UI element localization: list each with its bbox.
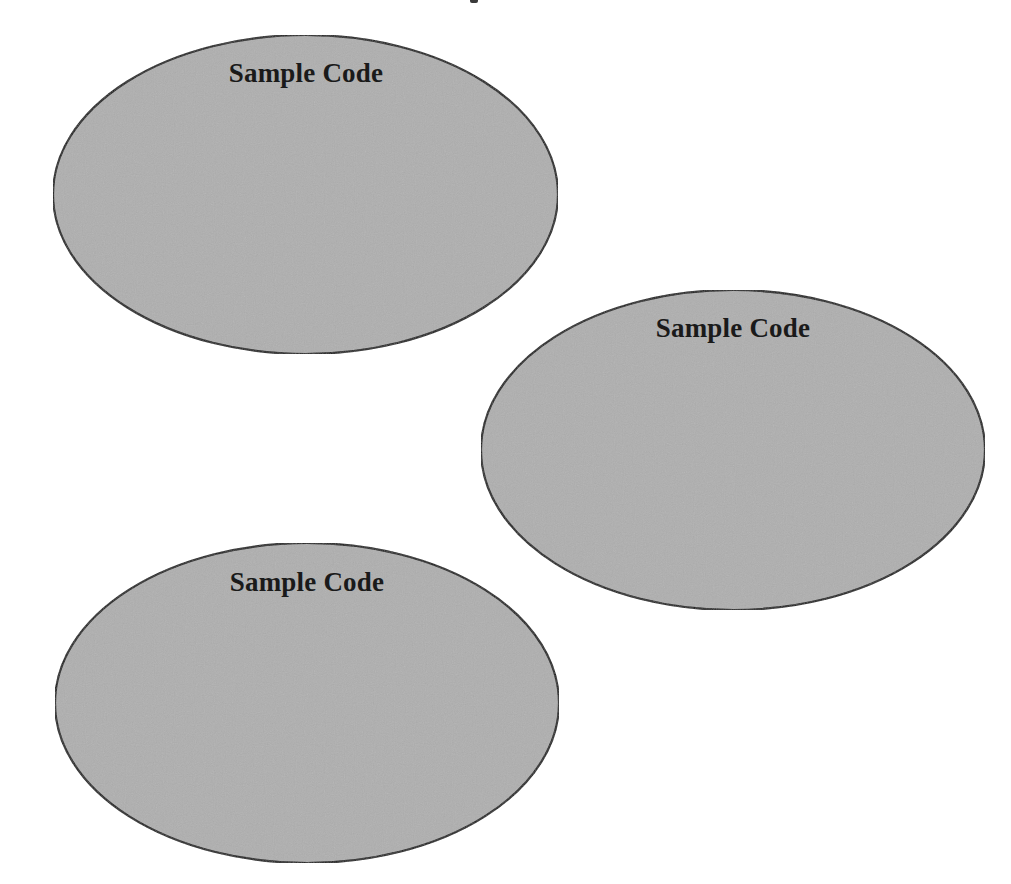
- node-3-label: Sample Code: [230, 569, 384, 596]
- node-2-label: Sample Code: [656, 315, 810, 342]
- node-1-label: Sample Code: [229, 60, 383, 87]
- diagram-canvas: Sample Code Sample Code Sample Code: [0, 0, 1011, 884]
- diagram-shapes: [0, 0, 1011, 884]
